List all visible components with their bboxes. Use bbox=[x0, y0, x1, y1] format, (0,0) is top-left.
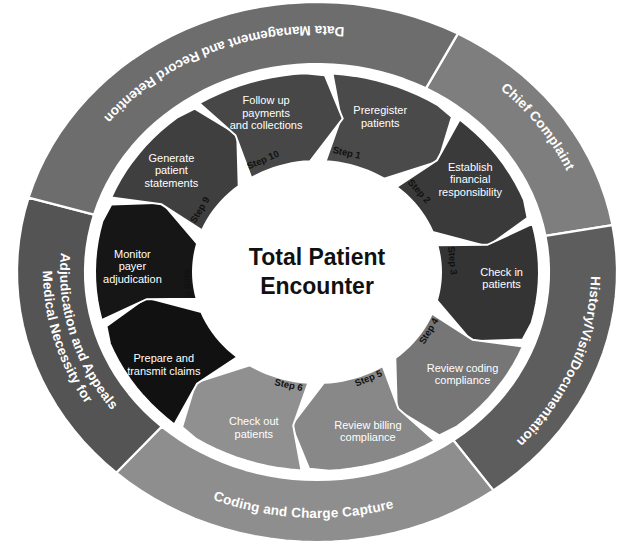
step-task-label-1: patients bbox=[361, 117, 400, 129]
step-task-label-10: Follow up bbox=[243, 94, 290, 106]
center-disc bbox=[199, 166, 435, 378]
patient-encounter-cycle-diagram: Chief ComplaintHistory/Visit/Documentati… bbox=[0, 0, 635, 544]
step-task-label-9: statements bbox=[144, 177, 198, 189]
step-task-label-8: payer bbox=[119, 260, 147, 272]
step-task-label-3: patients bbox=[482, 278, 521, 290]
step-task-label-2: responsibility bbox=[438, 186, 502, 198]
step-task-label-7: Prepare and bbox=[134, 352, 195, 364]
step-task-label-10: payments bbox=[242, 107, 290, 119]
step-task-label-2: financial bbox=[450, 173, 490, 185]
step-task-label-8: Monitor bbox=[114, 248, 151, 260]
center-title-line-2: Encounter bbox=[260, 273, 374, 299]
step-task-label-3: Check in bbox=[480, 266, 523, 278]
step-task-label-9: patient bbox=[155, 164, 188, 176]
step-task-label-6: patients bbox=[235, 428, 274, 440]
step-task-label-2: Establish bbox=[448, 161, 493, 173]
step-task-label-7: transmit claims bbox=[127, 365, 201, 377]
center-title-line-1: Total Patient bbox=[249, 244, 386, 270]
step-task-label-9: Generate bbox=[148, 152, 194, 164]
step-task-label-4: compliance bbox=[435, 374, 491, 386]
cycle-wheel-svg: Chief ComplaintHistory/Visit/Documentati… bbox=[0, 0, 635, 544]
step-task-label-8: adjudication bbox=[103, 273, 162, 285]
step-task-label-5: compliance bbox=[340, 431, 396, 443]
step-task-label-10: and collections bbox=[230, 119, 303, 131]
step-task-label-5: Review billing bbox=[334, 419, 401, 431]
step-task-label-6: Check out bbox=[229, 415, 279, 427]
step-task-label-1: Preregister bbox=[353, 104, 407, 116]
step-task-label-4: Review coding bbox=[427, 362, 499, 374]
